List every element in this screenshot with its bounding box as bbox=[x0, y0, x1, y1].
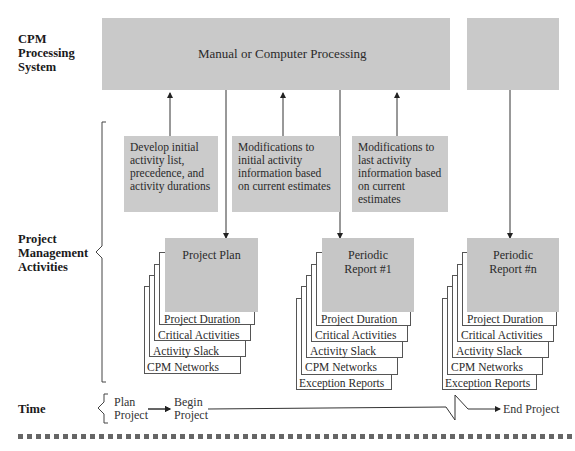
layer-label: Project Duration bbox=[164, 313, 240, 325]
dashed-divider bbox=[18, 434, 573, 439]
layer-label: CPM Networks bbox=[305, 361, 377, 373]
layer-label: Critical Activities bbox=[158, 329, 239, 341]
layer-label: Project Duration bbox=[467, 313, 543, 325]
note-modifications-last: Modifications to last activity informati… bbox=[352, 136, 448, 212]
layer-label: Project Duration bbox=[321, 313, 397, 325]
layer-label: Exception Reports bbox=[445, 377, 530, 389]
layer-label: Exception Reports bbox=[299, 377, 384, 389]
layer-label: Critical Activities bbox=[461, 329, 542, 341]
timeline-end-project: End Project bbox=[503, 403, 559, 416]
timeline-begin-project: Begin Project bbox=[174, 396, 208, 422]
stack-title: Periodic Report #1 bbox=[322, 238, 414, 312]
layer-label: Critical Activities bbox=[315, 329, 396, 341]
timeline-plan-project: Plan Project bbox=[114, 396, 148, 422]
layer-label: Activity Slack bbox=[153, 345, 219, 357]
note-develop-initial: Develop initial activity list, precedenc… bbox=[124, 136, 218, 212]
stack-title: Project Plan bbox=[165, 238, 258, 312]
note-modifications-initial: Modifications to initial activity inform… bbox=[232, 136, 340, 212]
layer-label: CPM Networks bbox=[147, 361, 219, 373]
layer-label: Activity Slack bbox=[310, 345, 376, 357]
layer-label: CPM Networks bbox=[451, 361, 523, 373]
layer-label: Activity Slack bbox=[456, 345, 522, 357]
stack-title: Periodic Report #n bbox=[467, 238, 559, 312]
